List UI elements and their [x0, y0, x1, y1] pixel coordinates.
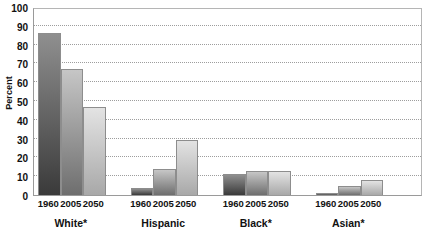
x-axis-group-label: White* — [54, 217, 87, 229]
bar-black-2050 — [268, 171, 291, 195]
x-axis-labels: 196020052050White*196020052050Hispanic19… — [33, 198, 422, 237]
bar-black-1960 — [223, 174, 246, 195]
x-axis-year-label: 2050 — [83, 198, 104, 209]
plot-area — [33, 8, 422, 196]
y-axis-tick-10: 10 — [17, 172, 28, 183]
x-axis-year-label: 2005 — [153, 198, 174, 209]
x-axis-year-label: 2050 — [360, 198, 381, 209]
bar-hispanic-1960 — [131, 188, 154, 195]
y-axis-tick-90: 90 — [17, 21, 28, 32]
x-axis-year-label: 1960 — [38, 198, 59, 209]
y-axis-tick-20: 20 — [17, 153, 28, 164]
x-axis-year-label: 2050 — [268, 198, 289, 209]
y-axis-tick-labels: 1009080706050403020100 — [0, 0, 31, 196]
y-axis-tick-0: 0 — [22, 191, 28, 202]
bar-asian-1960 — [316, 193, 339, 195]
x-axis-year-label: 2005 — [60, 198, 81, 209]
y-axis-tick-70: 70 — [17, 59, 28, 70]
bars-layer — [34, 9, 421, 195]
x-axis-year-label: 1960 — [315, 198, 336, 209]
bar-asian-2050 — [361, 180, 384, 195]
x-axis-year-label: 2005 — [338, 198, 359, 209]
x-axis-year-label: 2050 — [175, 198, 196, 209]
x-axis-year-label: 1960 — [130, 198, 151, 209]
y-axis-tick-50: 50 — [17, 97, 28, 108]
x-axis-group-label: Hispanic — [141, 217, 185, 229]
bar-white-2005 — [61, 69, 84, 195]
bar-chart: Percent 1009080706050403020100 196020052… — [0, 0, 428, 237]
x-axis-group-label: Asian* — [332, 217, 365, 229]
y-axis-tick-100: 100 — [11, 3, 28, 14]
bar-white-2050 — [83, 107, 106, 195]
bar-black-2005 — [246, 171, 269, 195]
x-axis-group-label: Black* — [240, 217, 272, 229]
x-axis-year-label: 2005 — [245, 198, 266, 209]
y-axis-tick-30: 30 — [17, 134, 28, 145]
y-axis-tick-40: 40 — [17, 115, 28, 126]
y-axis-tick-60: 60 — [17, 78, 28, 89]
y-axis-tick-80: 80 — [17, 40, 28, 51]
bar-white-1960 — [38, 33, 61, 195]
bar-asian-2005 — [338, 186, 361, 195]
bar-hispanic-2050 — [176, 140, 199, 195]
bar-hispanic-2005 — [153, 169, 176, 195]
x-axis-year-label: 1960 — [223, 198, 244, 209]
